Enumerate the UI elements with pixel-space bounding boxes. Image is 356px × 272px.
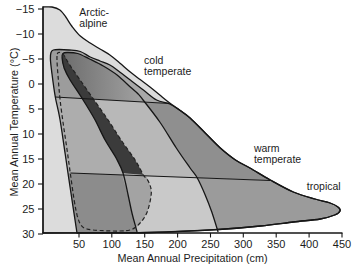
x-tick-label: 450: [333, 238, 351, 250]
biome-climate-chart: −15−10−505101520253050100150200250300350…: [0, 0, 356, 272]
biome-label-tropical: tropical: [307, 180, 341, 192]
y-tick-label: 30: [22, 228, 34, 240]
biome-regions: [33, 0, 355, 264]
y-tick-label: 0: [28, 78, 34, 90]
y-axis-title: Mean Annual Temperature (°C): [8, 48, 20, 197]
x-tick-label: 100: [103, 238, 121, 250]
biome-label-warm-temperate: warm: [253, 142, 280, 154]
x-tick-label: 300: [234, 238, 252, 250]
x-tick-label: 350: [267, 238, 285, 250]
x-tick-label: 150: [136, 238, 154, 250]
y-tick-label: 20: [22, 178, 34, 190]
biome-label-cold-temperate: cold: [144, 54, 163, 66]
biome-label-arctic-alpine: Arctic-: [79, 6, 109, 18]
y-tick-label: 10: [22, 128, 34, 140]
x-tick-label: 250: [201, 238, 219, 250]
y-tick-label: 15: [22, 153, 34, 165]
y-tick-label: 25: [22, 203, 34, 215]
x-tick-label: 200: [168, 238, 186, 250]
biome-label-arctic-alpine: alpine: [79, 17, 107, 29]
x-tick-label: 400: [300, 238, 318, 250]
y-tick-label: −10: [16, 28, 35, 40]
biome-label-cold-temperate: temperate: [144, 65, 191, 77]
y-tick-label: −15: [16, 3, 35, 15]
y-tick-label: −5: [22, 53, 35, 65]
x-tick-label: 50: [73, 238, 85, 250]
x-axis-title: Mean Annual Precipitation (cm): [117, 252, 267, 264]
y-tick-label: 5: [28, 103, 34, 115]
biome-label-warm-temperate: temperate: [254, 153, 301, 165]
